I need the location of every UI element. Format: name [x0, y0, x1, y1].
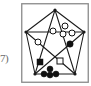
diagram-canvas: 7): [0, 0, 91, 86]
figure-number-label: 7): [0, 50, 20, 66]
filled-square-left: [37, 59, 43, 65]
vertex-dot-upper-right: [82, 30, 85, 33]
filled-circle-cluster-left: [41, 71, 47, 77]
open-square-right: [57, 58, 63, 64]
pentagram-diagram: [21, 3, 89, 83]
filled-circle-cluster-top: [47, 66, 53, 72]
vertex-dot-upper-left: [24, 30, 27, 33]
vertex-dot-lower-left: [33, 72, 36, 75]
filled-circle-cluster-right: [53, 71, 59, 77]
vertex-dot-lower-right: [73, 72, 76, 75]
panel-border: [22, 4, 89, 83]
open-circle-center: [50, 28, 56, 34]
figure-panel: [21, 3, 89, 83]
filled-circle-cluster-mid: [47, 72, 53, 78]
open-circle-mid: [60, 31, 66, 37]
open-circle-right: [69, 30, 75, 36]
vertex-dot-apex: [53, 8, 56, 11]
open-circle-left: [35, 39, 41, 45]
open-circle-upper: [62, 23, 68, 29]
filled-circle-right: [67, 41, 73, 47]
